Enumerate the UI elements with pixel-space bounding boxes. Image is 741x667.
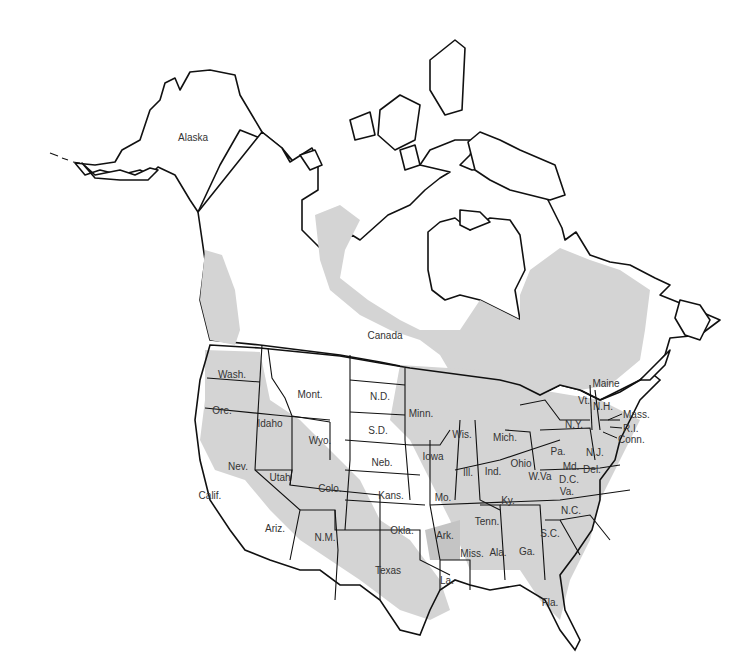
state-label-dc: D.C. (559, 474, 579, 485)
state-label-texas: Texas (375, 565, 401, 576)
state-label-mont: Mont. (297, 389, 322, 400)
state-label-ind: Ind. (485, 466, 502, 477)
state-label-ill: Ill. (463, 467, 473, 478)
state-label-minn: Minn. (409, 408, 433, 419)
state-label-md: Md. (563, 461, 580, 472)
state-label-del: Del. (583, 464, 601, 475)
state-label-ny: N.Y. (565, 419, 583, 430)
state-label-la: La. (440, 575, 454, 586)
arctic-island (430, 40, 465, 115)
state-label-maine: Maine (592, 378, 619, 389)
state-label-wis: Wis. (452, 429, 471, 440)
state-label-colo: Colo. (318, 483, 341, 494)
state-label-mass: Mass. (623, 409, 650, 420)
state-label-ky: Ky. (501, 495, 515, 506)
state-label-conn: Conn. (618, 434, 645, 445)
state-label-wash: Wash. (218, 369, 246, 380)
state-label-ariz: Ariz. (265, 523, 285, 534)
state-label-pa: Pa. (550, 446, 565, 457)
state-label-nd: N.D. (370, 391, 390, 402)
arctic-island (400, 145, 420, 170)
arctic-island (378, 95, 420, 150)
state-label-sd: S.D. (368, 425, 387, 436)
state-label-sc: S.C. (540, 528, 559, 539)
state-label-neb: Neb. (371, 457, 392, 468)
state-label-nc: N.C. (561, 505, 581, 516)
state-label-iowa: Iowa (422, 451, 443, 462)
state-label-wyo: Wyo. (309, 435, 332, 446)
state-label-mo: Mo. (435, 492, 452, 503)
state-label-utah: Utah (269, 472, 290, 483)
state-label-wva: W.Va (528, 471, 551, 482)
state-label-nm: N.M. (314, 532, 335, 543)
state-label-okla: Okla. (390, 525, 413, 536)
state-label-ark: Ark. (436, 530, 454, 541)
state-label-nj: N.J. (586, 447, 604, 458)
state-label-mich: Mich. (493, 432, 517, 443)
arctic-island (350, 112, 375, 140)
region-label-alaska: Alaska (178, 132, 208, 143)
state-label-tenn: Tenn. (475, 516, 499, 527)
state-label-ga: Ga. (519, 546, 535, 557)
state-label-ohio: Ohio (510, 458, 531, 469)
state-label-nh: N.H. (593, 401, 613, 412)
state-label-ala: Ala. (489, 547, 506, 558)
state-label-vt: Vt. (578, 395, 590, 406)
state-label-ri: R.I. (623, 423, 639, 434)
state-label-nev: Nev. (228, 461, 248, 472)
state-label-miss: Miss. (460, 548, 483, 559)
state-label-ore: Ore. (212, 405, 231, 416)
region-label-canada: Canada (367, 330, 402, 341)
state-label-calif: Calif. (199, 490, 222, 501)
state-label-idaho: Idaho (257, 418, 282, 429)
state-label-kans: Kans. (378, 490, 404, 501)
aleutian-islands (50, 153, 80, 163)
state-label-fla: Fla. (542, 597, 559, 608)
state-label-va: Va. (560, 486, 574, 497)
